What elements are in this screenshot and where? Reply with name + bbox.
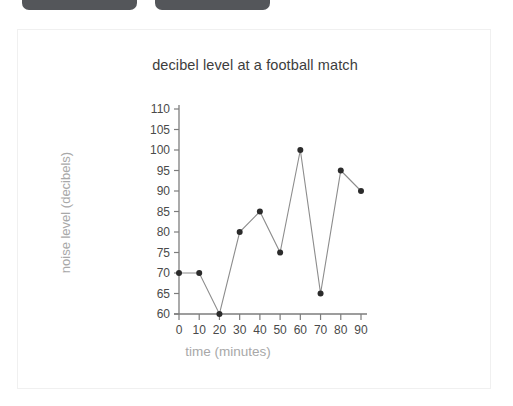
y-tick-label: 65 bbox=[157, 287, 171, 301]
chart-plot-svg: 6065707580859095100105110 01020304050607… bbox=[18, 30, 492, 390]
x-tick-label: 90 bbox=[354, 323, 368, 337]
x-tick-label: 80 bbox=[334, 323, 348, 337]
x-tick-label: 20 bbox=[213, 323, 227, 337]
toolbar-chip-right[interactable] bbox=[155, 0, 270, 10]
data-point bbox=[196, 270, 202, 276]
data-point bbox=[318, 291, 324, 297]
x-tick-label: 70 bbox=[314, 323, 328, 337]
x-tick-label: 50 bbox=[273, 323, 287, 337]
x-tick-label-group: 0102030405060708090 bbox=[176, 323, 368, 337]
y-tick-label: 80 bbox=[157, 225, 171, 239]
y-tick-label: 95 bbox=[157, 164, 171, 178]
data-point bbox=[338, 168, 344, 174]
data-point bbox=[257, 209, 263, 215]
x-tick-label: 40 bbox=[253, 323, 267, 337]
x-tick-label: 10 bbox=[193, 323, 207, 337]
chart-card: decibel level at a football match noise … bbox=[17, 29, 491, 389]
y-tick-label: 60 bbox=[157, 307, 171, 321]
y-tick-label-group: 6065707580859095100105110 bbox=[150, 102, 170, 321]
data-point bbox=[216, 311, 222, 317]
data-point bbox=[176, 270, 182, 276]
y-tick-mark-group bbox=[174, 109, 179, 314]
y-tick-label: 70 bbox=[157, 266, 171, 280]
plot-area: noise level (decibels) time (minutes) 60… bbox=[18, 30, 492, 390]
y-tick-label: 85 bbox=[157, 205, 171, 219]
y-tick-label: 75 bbox=[157, 246, 171, 260]
top-toolbar bbox=[0, 0, 513, 14]
data-series-line bbox=[179, 150, 361, 314]
data-point bbox=[277, 250, 283, 256]
x-tick-label: 0 bbox=[176, 323, 183, 337]
y-tick-label: 105 bbox=[150, 123, 170, 137]
y-tick-label: 90 bbox=[157, 184, 171, 198]
toolbar-chip-left[interactable] bbox=[22, 0, 137, 10]
data-point bbox=[297, 147, 303, 153]
y-tick-label: 110 bbox=[151, 102, 170, 116]
x-tick-label: 60 bbox=[294, 323, 308, 337]
x-tick-label: 30 bbox=[233, 323, 247, 337]
x-tick-mark-group bbox=[179, 314, 361, 320]
y-tick-label: 100 bbox=[150, 143, 170, 157]
axis-lines-group bbox=[174, 105, 367, 314]
data-point bbox=[358, 188, 364, 194]
data-point bbox=[237, 229, 243, 235]
